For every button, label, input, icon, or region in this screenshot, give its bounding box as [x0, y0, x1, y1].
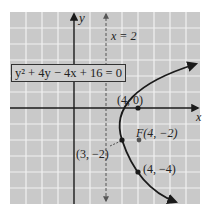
point-label-4-0: (4, 0): [117, 94, 143, 106]
vertex-label: (3, −2): [76, 148, 109, 160]
equation-box: y² + 4y − 4x + 16 = 0: [11, 64, 126, 82]
x-axis-label: x: [196, 111, 201, 123]
parabola-diagram: y² + 4y − 4x + 16 = 0 y x x = 2 (4, 0) (…: [0, 0, 210, 217]
directrix-label: x = 2: [111, 30, 136, 42]
y-axis-label: y: [79, 11, 85, 24]
vertex-point: [119, 137, 124, 142]
graph-canvas: [0, 0, 210, 217]
point-label-4-neg4: (4, −4): [143, 163, 176, 175]
focus-label: F(4, −2): [136, 127, 177, 139]
point-4-neg4: [135, 169, 140, 174]
